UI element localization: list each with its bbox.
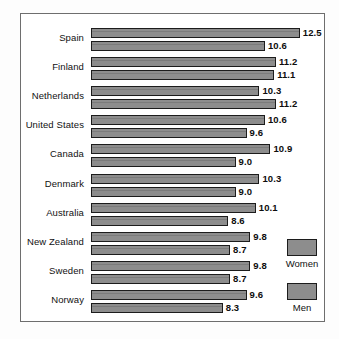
value-label-women-new-zealand: 9.8 <box>253 232 267 242</box>
category-label-australia: Australia <box>21 207 84 218</box>
legend-swatch-men <box>287 283 317 300</box>
bar-highlight <box>92 131 246 132</box>
value-label-women-netherlands: 10.3 <box>262 86 281 96</box>
legend-item-women: Women <box>279 239 325 269</box>
category-label-united-states: United States <box>21 119 84 130</box>
chart-row: Finland11.211.1 <box>21 57 326 82</box>
value-label-women-denmark: 10.3 <box>262 174 281 184</box>
category-label-canada: Canada <box>21 148 84 159</box>
bar-highlight <box>92 147 269 148</box>
bar-men-netherlands <box>91 99 276 109</box>
value-label-women-sweden: 9.8 <box>253 261 267 271</box>
bar-women-norway <box>91 290 247 300</box>
category-label-sweden: Sweden <box>21 265 84 276</box>
bar-highlight <box>92 306 222 307</box>
bar-women-australia <box>91 203 256 213</box>
value-label-women-australia: 10.1 <box>259 203 278 213</box>
bar-men-denmark <box>91 187 236 197</box>
value-label-women-finland: 11.2 <box>279 57 297 67</box>
category-label-netherlands: Netherlands <box>21 90 84 101</box>
chart-panel: Spain12.510.6Finland11.211.1Netherlands1… <box>20 13 325 322</box>
value-label-women-united-states: 10.6 <box>268 115 287 125</box>
chart-row: United States10.69.6 <box>21 115 326 140</box>
bar-highlight <box>92 190 235 191</box>
bar-highlight <box>92 264 249 265</box>
bar-women-denmark <box>91 174 259 184</box>
value-label-women-canada: 10.9 <box>273 144 292 154</box>
bar-highlight <box>92 89 258 90</box>
plot-area: Spain12.510.6Finland11.211.1Netherlands1… <box>21 14 326 323</box>
value-label-men-australia: 8.6 <box>231 216 245 226</box>
bar-highlight <box>92 219 227 220</box>
category-label-denmark: Denmark <box>21 178 84 189</box>
bar-highlight <box>92 31 299 32</box>
legend-item-men: Men <box>279 283 325 313</box>
category-label-new-zealand: New Zealand <box>21 236 84 247</box>
bar-highlight <box>92 293 246 294</box>
value-label-women-spain: 12.5 <box>303 28 322 38</box>
bar-highlight <box>92 177 258 178</box>
chart-row: Denmark10.39.0 <box>21 174 326 199</box>
bar-highlight <box>92 160 235 161</box>
value-label-men-norway: 8.3 <box>226 303 240 313</box>
bar-men-new-zealand <box>91 245 230 255</box>
bar-highlight <box>92 206 255 207</box>
bar-highlight <box>92 118 264 119</box>
category-label-spain: Spain <box>21 32 84 43</box>
bar-women-finland <box>91 57 276 67</box>
value-label-men-sweden: 8.7 <box>233 274 247 284</box>
bar-highlight <box>92 44 264 45</box>
bar-women-canada <box>91 144 270 154</box>
bar-women-united-states <box>91 115 265 125</box>
category-label-finland: Finland <box>21 61 84 72</box>
bar-highlight <box>92 102 275 103</box>
legend-swatch-women <box>287 239 317 256</box>
chart-row: Australia10.18.6 <box>21 203 326 228</box>
chart-row: Spain12.510.6 <box>21 28 326 53</box>
bar-women-new-zealand <box>91 232 250 242</box>
bar-men-united-states <box>91 128 247 138</box>
bar-men-spain <box>91 41 265 51</box>
value-label-men-new-zealand: 8.7 <box>233 245 247 255</box>
bar-women-netherlands <box>91 86 259 96</box>
legend-label-men: Men <box>279 302 325 313</box>
bar-men-norway <box>91 303 223 313</box>
bar-highlight <box>92 235 249 236</box>
value-label-men-denmark: 9.0 <box>239 187 253 197</box>
bar-men-australia <box>91 216 228 226</box>
bar-highlight <box>92 73 273 74</box>
bar-highlight <box>92 60 275 61</box>
chart-container: Spain12.510.6Finland11.211.1Netherlands1… <box>0 0 339 339</box>
legend-label-women: Women <box>279 258 325 269</box>
bar-men-sweden <box>91 274 230 284</box>
value-label-men-netherlands: 11.2 <box>279 99 297 109</box>
value-label-men-canada: 9.0 <box>239 157 253 167</box>
category-label-norway: Norway <box>21 294 84 305</box>
value-label-women-norway: 9.6 <box>250 290 264 300</box>
bar-men-canada <box>91 157 236 167</box>
bar-men-finland <box>91 70 274 80</box>
bar-women-sweden <box>91 261 250 271</box>
bar-highlight <box>92 277 229 278</box>
value-label-men-finland: 11.1 <box>277 70 295 80</box>
bar-women-spain <box>91 28 300 38</box>
value-label-men-spain: 10.6 <box>268 41 287 51</box>
bar-highlight <box>92 248 229 249</box>
value-label-men-united-states: 9.6 <box>250 128 264 138</box>
chart-row: Canada10.99.0 <box>21 144 326 169</box>
chart-row: Netherlands10.311.2 <box>21 86 326 111</box>
